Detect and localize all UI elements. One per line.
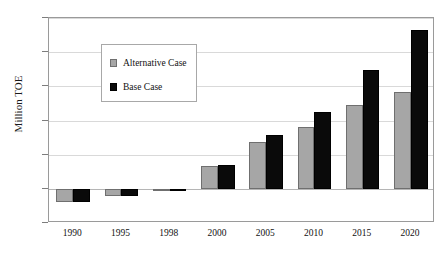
legend-item-alternative-case: Alternative Case: [110, 58, 187, 68]
x-axis-tick-labels: 19901995199820002005201020152020: [48, 228, 434, 244]
bar-alternative-case: [346, 105, 363, 188]
x-axis-tick-label: 2015: [338, 228, 386, 238]
bar-chart: Million TOE 250200150100500-50 199019951…: [0, 0, 444, 260]
bar-group: [194, 18, 242, 221]
x-axis-tick-label: 2010: [289, 228, 337, 238]
bar-alternative-case: [201, 166, 218, 189]
bar-base-case: [170, 189, 187, 191]
legend-label: Base Case: [123, 82, 162, 92]
bar-base-case: [411, 30, 428, 189]
x-axis-tick-label: 2005: [241, 228, 289, 238]
x-axis-tick-label: 1998: [145, 228, 193, 238]
bar-alternative-case: [249, 142, 266, 188]
bar-base-case: [314, 112, 331, 189]
y-axis-tick-mark: [42, 222, 48, 223]
x-axis-tick-label: 2000: [193, 228, 241, 238]
legend-label: Alternative Case: [123, 58, 187, 68]
bar-group: [339, 18, 387, 221]
legend: Alternative Case Base Case: [101, 44, 197, 102]
bar-alternative-case: [153, 189, 170, 191]
bar-alternative-case: [298, 127, 315, 189]
bar-alternative-case: [56, 189, 73, 203]
bar-alternative-case: [394, 92, 411, 188]
x-axis-tick-label: 1995: [96, 228, 144, 238]
bar-base-case: [121, 189, 138, 197]
legend-swatch-icon: [110, 59, 117, 67]
chart-title: [0, 0, 444, 1]
bar-group: [242, 18, 290, 221]
bar-group: [290, 18, 338, 221]
bar-base-case: [363, 70, 380, 189]
legend-swatch-icon: [110, 83, 117, 91]
bar-base-case: [218, 165, 235, 189]
bar-group: [49, 18, 97, 221]
legend-item-base-case: Base Case: [110, 82, 162, 92]
bar-base-case: [266, 135, 283, 189]
x-axis-tick-label: 1990: [48, 228, 96, 238]
x-axis-tick-label: 2020: [386, 228, 434, 238]
bar-alternative-case: [105, 189, 122, 197]
bar-base-case: [73, 189, 90, 203]
y-axis-title: Million TOE: [12, 59, 24, 149]
bar-group: [387, 18, 434, 221]
